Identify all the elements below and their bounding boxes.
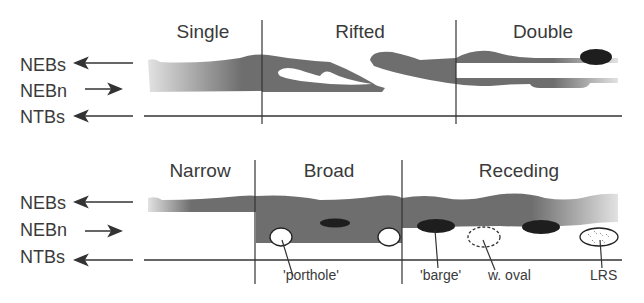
bottom-panel: Narrow Broad Receding NEBs NEBn NTBs — [20, 160, 622, 284]
row-label-nebs: NEBs — [20, 193, 66, 213]
label-porthole: 'porthole' — [283, 267, 339, 283]
label-white-oval: w. oval — [487, 267, 531, 283]
arrow-left-icon — [75, 111, 133, 121]
col-header-double: Double — [513, 21, 573, 42]
porthole-oval — [270, 228, 292, 246]
col-header-rifted: Rifted — [335, 21, 385, 42]
top-panel: Single Rifted Double NEBs NEBn NTBs — [20, 20, 622, 127]
row-label-ntbs: NTBs — [20, 107, 65, 127]
dark-spot — [522, 220, 560, 234]
col-header-single: Single — [177, 21, 230, 42]
arrow-left-icon — [75, 58, 133, 68]
row-label-ntbs: NTBs — [20, 247, 65, 267]
row-label-nebs: NEBs — [20, 55, 66, 75]
dark-spot — [320, 219, 350, 228]
barge-spot — [417, 219, 455, 233]
col-header-receding: Receding — [479, 160, 559, 181]
arrow-left-icon — [75, 197, 133, 207]
belt-diagram: Single Rifted Double NEBs NEBn NTBs — [0, 0, 644, 303]
arrow-right-icon — [85, 84, 121, 94]
col-header-broad: Broad — [304, 160, 355, 181]
col-header-narrow: Narrow — [169, 160, 231, 181]
belt-band-rifted-upper — [370, 52, 456, 84]
belt-band-narrow — [148, 196, 256, 213]
label-lrs: LRS — [590, 267, 617, 283]
row-label-nebn: NEBn — [20, 81, 67, 101]
row-label-nebn: NEBn — [20, 220, 67, 240]
porthole-oval — [378, 228, 400, 246]
arrow-right-icon — [85, 226, 121, 236]
dark-spot — [580, 49, 612, 65]
label-barge: 'barge' — [420, 267, 461, 283]
arrow-left-icon — [75, 255, 133, 265]
lrs-oval — [580, 228, 618, 246]
belt-band-double-lower — [456, 78, 618, 88]
